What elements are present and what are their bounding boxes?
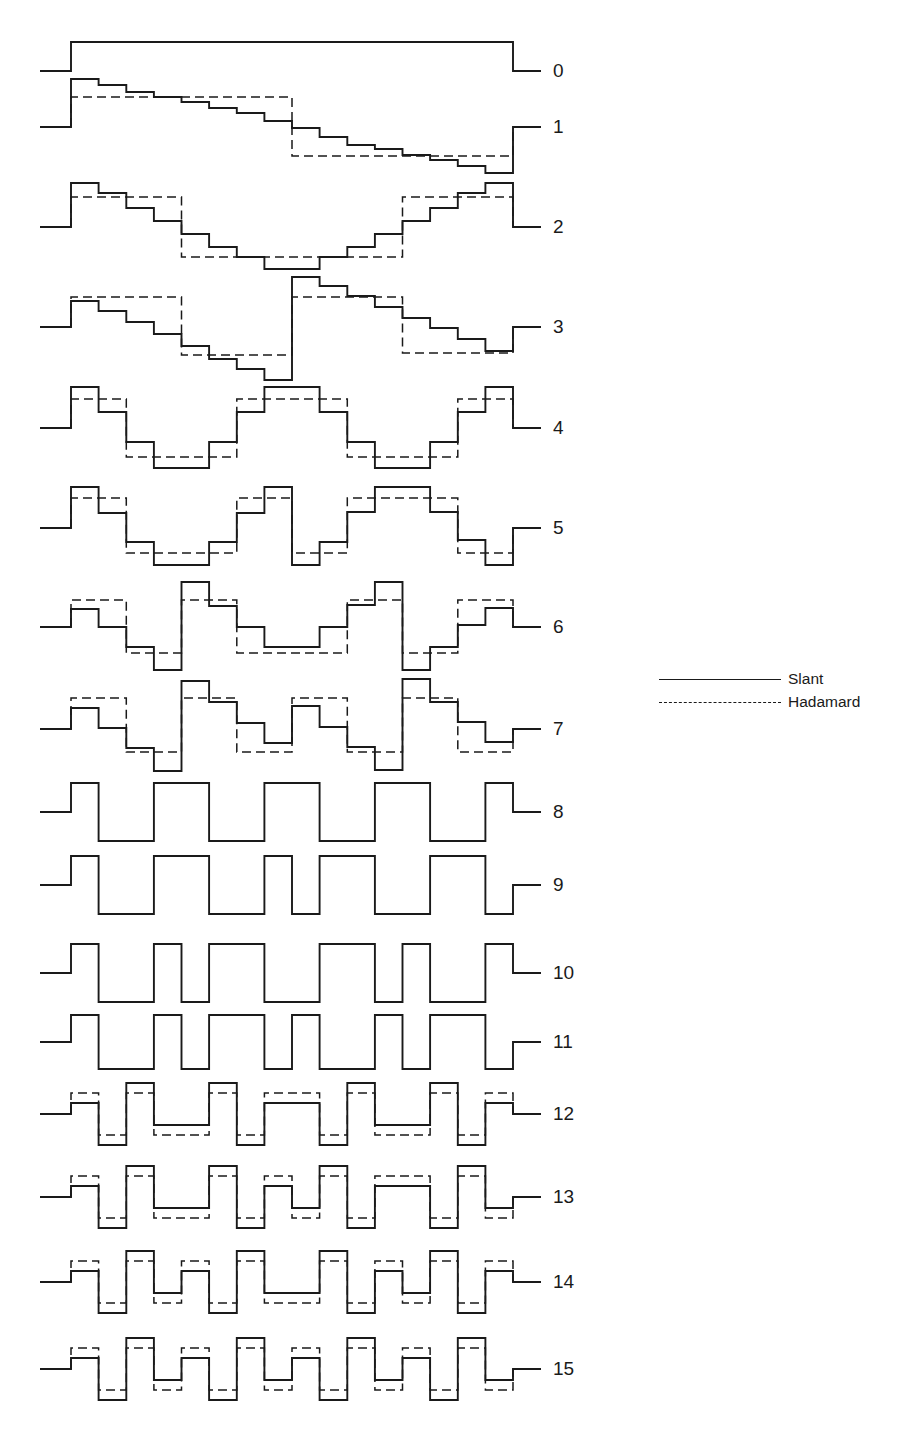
hadamard-trace-6 bbox=[71, 600, 513, 653]
row-label-12: 12 bbox=[553, 1104, 574, 1123]
hadamard-trace-2 bbox=[71, 197, 513, 257]
slant-trace-6 bbox=[40, 582, 541, 670]
row-label-2: 2 bbox=[553, 217, 564, 236]
hadamard-trace-14 bbox=[71, 1261, 513, 1303]
hadamard-trace-12 bbox=[71, 1093, 513, 1135]
row-label-8: 8 bbox=[553, 802, 564, 821]
legend: Slant Hadamard bbox=[659, 668, 899, 718]
row-label-11: 11 bbox=[553, 1032, 573, 1051]
legend-item-slant: Slant bbox=[659, 668, 899, 690]
slant-trace-3 bbox=[40, 277, 541, 380]
slant-trace-9 bbox=[40, 856, 541, 914]
row-label-3: 3 bbox=[553, 317, 564, 336]
row-label-6: 6 bbox=[553, 617, 564, 636]
waveform-traces bbox=[40, 42, 541, 1400]
row-label-10: 10 bbox=[553, 963, 574, 982]
slant-trace-10 bbox=[40, 944, 541, 1002]
slant-trace-11 bbox=[40, 1015, 541, 1069]
hadamard-trace-4 bbox=[71, 399, 513, 457]
solid-line-swatch bbox=[659, 679, 781, 680]
row-label-15: 15 bbox=[553, 1359, 574, 1378]
row-label-1: 1 bbox=[553, 117, 564, 136]
row-label-4: 4 bbox=[553, 418, 564, 437]
legend-label-slant: Slant bbox=[788, 670, 823, 688]
slant-trace-0 bbox=[40, 42, 541, 71]
legend-item-hadamard: Hadamard bbox=[659, 691, 899, 713]
row-label-9: 9 bbox=[553, 875, 564, 894]
legend-label-hadamard: Hadamard bbox=[788, 693, 860, 711]
slant-trace-8 bbox=[40, 783, 541, 841]
row-label-13: 13 bbox=[553, 1187, 574, 1206]
slant-trace-7 bbox=[40, 679, 541, 771]
row-label-0: 0 bbox=[553, 61, 564, 80]
dashed-line-swatch bbox=[659, 702, 781, 703]
slant-trace-1 bbox=[40, 79, 541, 173]
row-label-5: 5 bbox=[553, 518, 564, 537]
row-label-7: 7 bbox=[553, 719, 564, 738]
row-label-14: 14 bbox=[553, 1272, 574, 1291]
slant-trace-2 bbox=[40, 183, 541, 269]
basis-functions-diagram bbox=[0, 0, 919, 1444]
